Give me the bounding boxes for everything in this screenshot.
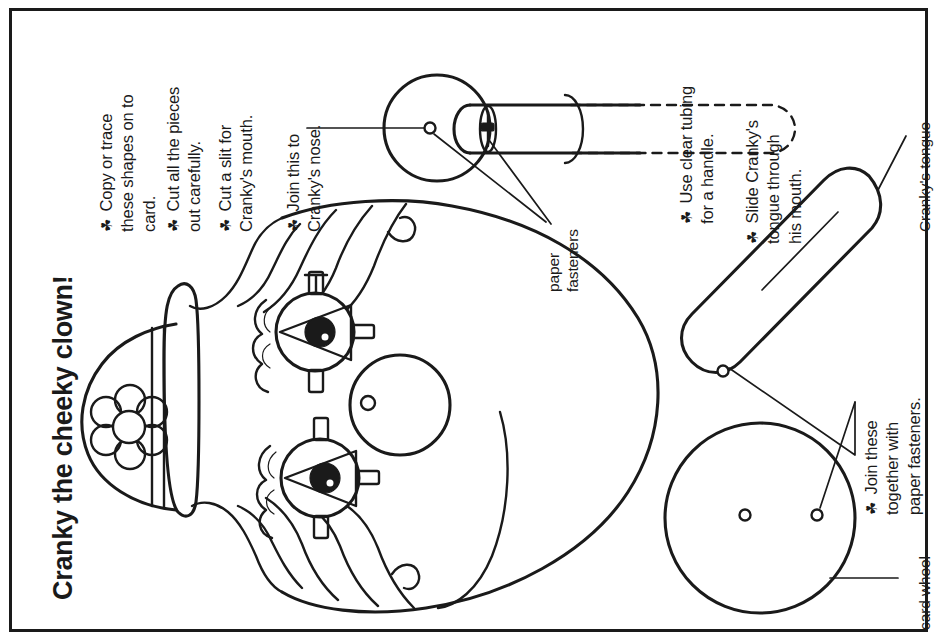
instruction-5-text: Use clear tubing for a handle. [677, 86, 716, 224]
clover-bullet-icon: ☘ [285, 219, 302, 232]
instruction-2: ☘ Cut all the pieces out carefully. [163, 87, 206, 232]
worksheet-page: Cranky the cheeky clown! ☘ Copy or trace… [0, 0, 938, 641]
instruction-2-text: Cut all the pieces out carefully. [164, 87, 203, 232]
instruction-4: ☘ Join this to Cranky's nose. [283, 125, 326, 232]
instruction-3: ☘ Cut a slit for Cranky's mouth. [215, 115, 258, 232]
callout-crankys-tongue: Cranky's tongue [916, 122, 935, 232]
clover-bullet-icon: ☘ [98, 219, 115, 232]
instruction-3-text: Cut a slit for Cranky's mouth. [216, 115, 255, 232]
callout-paper-fasteners: paper fasteners [545, 229, 583, 292]
clover-bullet-icon: ☘ [165, 219, 182, 232]
page-title: Cranky the cheeky clown! [49, 276, 77, 600]
clover-bullet-icon: ☘ [744, 231, 761, 244]
instruction-6-text: Slide Cranky's tongue through his mouth. [743, 120, 804, 244]
instruction-7-text: Join these together with paper fasteners… [862, 397, 923, 515]
instruction-7: ☘ Join these together with paper fastene… [861, 397, 925, 515]
instruction-1-text: Copy or trace these shapes on to card. [97, 94, 158, 232]
instruction-1: ☘ Copy or trace these shapes on to card. [96, 94, 160, 232]
clover-bullet-icon: ☘ [863, 502, 880, 515]
instruction-4-text: Join this to Cranky's nose. [284, 125, 323, 232]
clover-bullet-icon: ☘ [678, 211, 695, 224]
callout-card-wheel: card wheel [916, 556, 935, 630]
clover-bullet-icon: ☘ [217, 219, 234, 232]
instruction-6: ☘ Slide Cranky's tongue through his mout… [742, 120, 806, 244]
instruction-5: ☘ Use clear tubing for a handle. [676, 86, 719, 224]
